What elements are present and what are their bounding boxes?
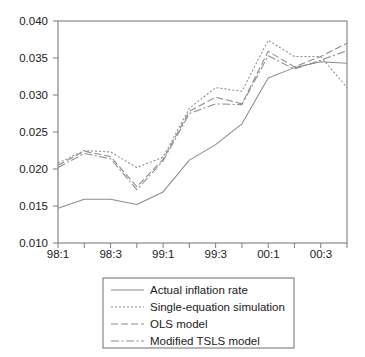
plot-area-border — [58, 21, 347, 243]
series-line-modified-tsls-model — [58, 51, 347, 190]
y-tick-label: 0.010 — [19, 237, 48, 249]
legend-label: Modified TSLS model — [150, 335, 260, 347]
series-line-ols-model — [58, 43, 347, 187]
data-series-layer — [58, 40, 347, 208]
y-tick-label: 0.040 — [19, 15, 48, 27]
x-tick-label: 00:1 — [257, 248, 279, 260]
x-tick-label: 99:3 — [205, 248, 227, 260]
legend: Actual inflation rate Single-equation si… — [103, 278, 294, 348]
y-tick-label: 0.035 — [19, 52, 48, 64]
y-axis-tick-labels: 0.040 0.035 0.030 0.025 0.020 0.015 0.01… — [19, 15, 48, 249]
series-line-actual-inflation-rate — [58, 62, 347, 209]
y-tick-label: 0.020 — [19, 163, 48, 175]
x-tick-label: 00:3 — [310, 248, 332, 260]
y-axis-ticks — [53, 21, 58, 243]
legend-label: Single-equation simulation — [150, 301, 285, 313]
legend-label: Actual inflation rate — [150, 284, 248, 296]
x-tick-label: 98:3 — [99, 248, 121, 260]
x-tick-label: 98:1 — [47, 248, 69, 260]
legend-label: OLS model — [150, 318, 208, 330]
plot-frame — [58, 21, 347, 243]
x-axis-tick-labels: 98:1 98:3 99:1 99:3 00:1 00:3 — [47, 248, 332, 260]
y-tick-label: 0.025 — [19, 126, 48, 138]
y-tick-label: 0.030 — [19, 89, 48, 101]
x-tick-label: 99:1 — [152, 248, 174, 260]
y-tick-label: 0.015 — [19, 200, 48, 212]
inflation-rate-line-chart: 0.040 0.035 0.030 0.025 0.020 0.015 0.01… — [0, 0, 365, 357]
